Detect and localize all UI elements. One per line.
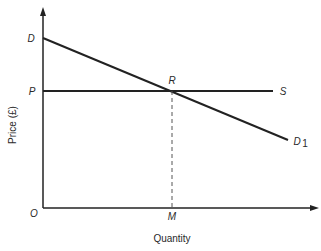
label-d: D bbox=[27, 33, 34, 44]
diagram-canvas: D P R S D 1 O M Quantity Price (£) bbox=[0, 0, 321, 251]
label-m: M bbox=[168, 211, 177, 222]
label-p: P bbox=[29, 86, 36, 97]
demand-curve bbox=[43, 38, 288, 140]
y-axis-arrow-icon bbox=[40, 7, 46, 16]
supply-demand-diagram: D P R S D 1 O M Quantity Price (£) bbox=[0, 0, 321, 251]
x-axis-title: Quantity bbox=[153, 233, 190, 244]
label-r: R bbox=[168, 75, 175, 86]
label-d1-subscript: 1 bbox=[302, 138, 308, 149]
y-axis-title: Price (£) bbox=[7, 106, 18, 144]
label-s: S bbox=[280, 86, 287, 97]
label-d1: D bbox=[293, 136, 300, 147]
x-axis-arrow-icon bbox=[310, 205, 319, 211]
label-origin: O bbox=[30, 208, 38, 219]
